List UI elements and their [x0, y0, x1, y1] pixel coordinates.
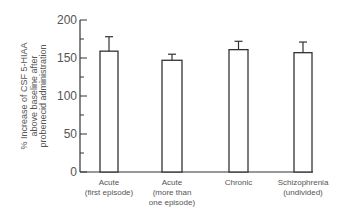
y-tick-label: 150 [57, 51, 77, 65]
y-tick-label: 100 [57, 89, 77, 103]
y-tick-label: 0 [70, 165, 77, 179]
category-label: (more than [153, 188, 192, 197]
bar-chart: % Increase of CSF 5-HIAAabove baseline a… [0, 0, 343, 214]
category-label: Acute [99, 178, 120, 187]
category-label: (first episode) [85, 188, 134, 197]
category-label: (undivided) [283, 188, 323, 197]
bar [294, 53, 312, 172]
bar-group [162, 54, 182, 172]
y-axis-label-line: probenecid administration [38, 44, 48, 147]
bar-group [229, 41, 248, 172]
bar [229, 50, 248, 172]
category-label: Chronic [225, 178, 253, 187]
y-axis-label: % Increase of CSF 5-HIAAabove baseline a… [19, 42, 48, 149]
bar-group [294, 42, 312, 172]
y-axis-label-line: above baseline after [29, 55, 39, 136]
bar [100, 51, 118, 172]
y-axis: 050100150200 [57, 13, 87, 179]
category-labels: Acute(first episode)Acute(more thanone e… [85, 178, 329, 207]
bars [100, 37, 312, 172]
y-tick-label: 50 [64, 127, 78, 141]
y-axis-label-line: % Increase of CSF 5-HIAA [19, 42, 29, 149]
category-label: Schizophrenia [278, 178, 329, 187]
category-label: one episode) [149, 198, 196, 207]
y-tick-label: 200 [57, 13, 77, 27]
category-label: Acute [162, 178, 183, 187]
bar [162, 60, 182, 172]
bar-group [100, 37, 118, 172]
